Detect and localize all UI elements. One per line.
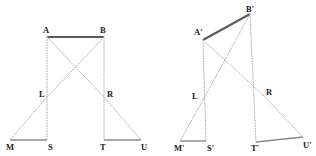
right-panel-vertical-B-T — [250, 14, 256, 142]
left-panel-vertex-label-r: R — [107, 90, 113, 99]
left-panel-vertex-label-l: L — [39, 90, 45, 99]
right-panel-vertex-label-t: T' — [251, 144, 259, 153]
left-panel-vertex-label-s: S — [48, 143, 53, 152]
right-panel-vertex-label-m: M' — [174, 144, 184, 153]
right-panel-vertex-label-u: U' — [303, 141, 312, 150]
right-panel-vertex-label-b: B' — [246, 5, 254, 14]
right-panel-vertex-label-r: R — [266, 88, 272, 97]
right-panel-diagonal-A-R — [203, 40, 263, 95]
right-panel-vertex-label-a: A' — [194, 28, 203, 37]
left-panel-vertex-label-b: B — [100, 26, 106, 35]
right-panel-baseline-TU — [256, 137, 303, 142]
right-panel-diagonal-L-M — [180, 100, 203, 141]
left-panel-vertex-label-m: M — [6, 143, 14, 152]
right-panel-diagonal-R-U — [263, 95, 303, 137]
right-panel-vertical-A-S — [203, 40, 206, 141]
left-panel-vertex-label-u: U — [141, 143, 147, 152]
diagram-canvas: ABLRMSTUA'B'LRM'S'T'U' — [0, 0, 316, 156]
right-panel-top-bar-AB — [203, 14, 250, 40]
left-panel-diagonal-R-U — [104, 97, 141, 140]
left-panel-vertex-label-t: T — [100, 143, 106, 152]
diagram-vector-layer — [0, 0, 316, 156]
right-panel-vertex-label-l: L — [192, 92, 198, 101]
left-panel-vertex-label-a: A — [43, 26, 49, 35]
left-panel — [10, 37, 141, 140]
right-panel-vertex-label-s: S' — [207, 144, 214, 153]
left-panel-diagonal-L-M — [10, 97, 47, 140]
